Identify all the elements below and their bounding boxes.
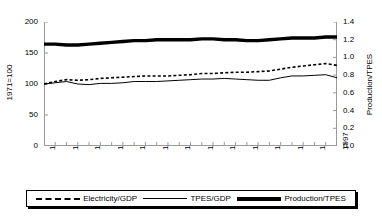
x-tick-marks [44,142,337,146]
y-right-tick-label: 0.6 [343,88,369,97]
y-left-tick-label: 0 [14,141,38,150]
legend-label-electricity-gdp: Electricity/GDP [83,194,137,203]
y-right-tick-label: 0.2 [343,123,369,132]
y-right-tick-label: 1.4 [343,17,369,26]
legend-label-production-tpes: Production/TPES [284,194,345,203]
x-tick-label: 1997 [341,132,350,150]
plot-lines [44,22,337,146]
y-left-tick-label: 200 [14,17,38,26]
legend-item-electricity-gdp: Electricity/GDP [36,194,137,203]
series-line-production-tpes [44,37,337,45]
y-left-tick-label: 100 [14,79,38,88]
legend-label-tpes-gdp: TPES/GDP [190,194,230,203]
thin-line-swatch [143,196,187,202]
dashed-line-swatch [36,196,80,202]
series-line-electricity-gdp [44,64,337,84]
y-right-tick-label: 1.0 [343,52,369,61]
y-left-tick-label: 50 [14,110,38,119]
y-right-tick-marks [333,22,337,146]
y-right-tick-label: 0.8 [343,70,369,79]
y-axis-left-title: 1971=100 [5,53,14,113]
y-left-tick-label: 150 [14,48,38,57]
legend-item-tpes-gdp: TPES/GDP [143,194,230,203]
thick-line-swatch [237,196,281,202]
chart-legend: Electricity/GDP TPES/GDP Production/TPES [26,190,356,207]
y-right-tick-label: 1.2 [343,35,369,44]
chart-container: 1971=100 Production/TPES 050100150200 0.… [0,0,382,219]
y-right-tick-label: 0.4 [343,106,369,115]
legend-item-production-tpes: Production/TPES [237,194,345,203]
